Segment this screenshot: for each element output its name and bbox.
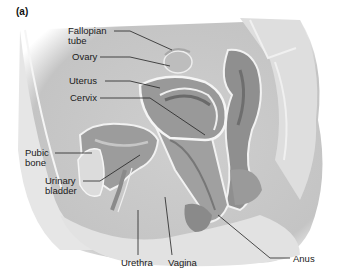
label-cervix: Cervix [70,93,97,103]
panel-label: (a) [16,6,28,17]
label-fallopian-tube: Fallopian tube [68,26,107,46]
label-ovary: Ovary [72,52,97,62]
label-vagina: Vagina [168,258,197,268]
anatomy-figure: (a) Fallopian tube Ovary Uterus Cervix P… [0,0,347,278]
label-urinary-bladder-line2: bladder [45,186,77,196]
label-fallopian-tube-line2: tube [68,36,107,46]
pubic-bone-shape [78,149,104,197]
pelvis-illustration [0,0,347,278]
label-urethra: Urethra [121,258,153,268]
label-uterus: Uterus [69,76,97,86]
label-pubic-bone-line2: bone [25,158,49,168]
label-pubic-bone: Pubic bone [25,148,49,168]
label-anus: Anus [293,254,315,264]
label-urinary-bladder: Urinary bladder [45,176,77,196]
